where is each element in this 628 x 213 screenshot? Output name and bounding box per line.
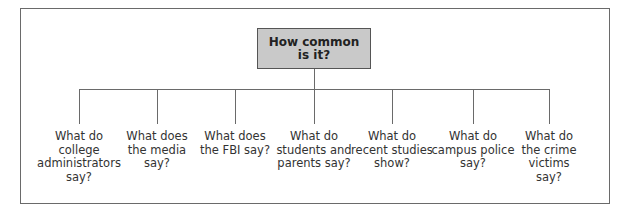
branch-node-recent-studies: What do recent studies show? [347, 130, 437, 171]
branch-connector [157, 89, 158, 124]
branch-connector [473, 89, 474, 124]
branch-connector [79, 89, 80, 124]
branch-connector [549, 89, 550, 124]
root-node: How common is it? [257, 28, 371, 69]
branch-node-fbi: What does the FBI say? [190, 130, 280, 157]
branch-node-crime-victims: What do the crime victims say? [504, 130, 594, 184]
branch-node-media: What does the media say? [112, 130, 202, 171]
branch-connector [314, 89, 315, 124]
branch-connector [392, 89, 393, 124]
branch-connector [235, 89, 236, 124]
branch-node-administrators: What do college administrators say? [34, 130, 124, 184]
branch-node-students-parents: What do students and parents say? [269, 130, 359, 171]
root-connector [314, 69, 315, 89]
